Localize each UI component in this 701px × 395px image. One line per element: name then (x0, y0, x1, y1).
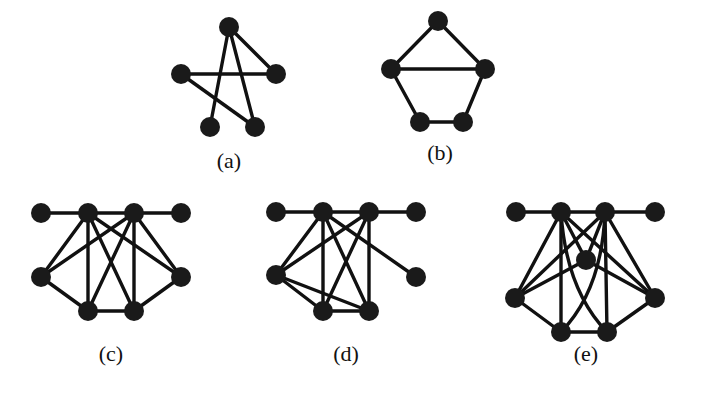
graph-node (219, 17, 239, 37)
caption-c: (c) (99, 341, 123, 366)
edges-layer (41, 21, 655, 332)
graph-node (505, 288, 525, 308)
graph-figure: (a)(b)(c)(d)(e) (0, 0, 701, 395)
graph-node (475, 59, 495, 79)
edge (210, 27, 229, 127)
graph-node (406, 202, 426, 222)
graph-node (359, 301, 379, 321)
graph-node (266, 265, 286, 285)
graph-node (171, 267, 191, 287)
graph-node (124, 301, 144, 321)
graph-a-nodes (171, 17, 286, 137)
graph-node (506, 202, 526, 222)
graph-node (171, 64, 191, 84)
edge (41, 213, 88, 277)
graph-node (78, 203, 98, 223)
edge (391, 21, 438, 69)
graph-b-nodes (381, 11, 495, 132)
graph-c-edges (41, 213, 181, 311)
edge (276, 212, 323, 275)
graph-node (171, 203, 191, 223)
graph-node (266, 202, 286, 222)
graph-node (31, 203, 51, 223)
graph-d-edges (276, 212, 416, 311)
graph-node (453, 112, 473, 132)
edge (438, 21, 485, 69)
graph-node (78, 301, 98, 321)
graph-node (200, 117, 220, 137)
graph-node (313, 301, 333, 321)
graph-e-edges (515, 212, 655, 332)
graph-node (245, 117, 265, 137)
graph-node (645, 202, 665, 222)
graph-node (576, 250, 596, 270)
graph-node (428, 11, 448, 31)
edge (134, 213, 181, 277)
caption-e: (e) (574, 341, 598, 366)
graph-node (359, 202, 379, 222)
graph-node (410, 112, 430, 132)
graph-node (406, 267, 426, 287)
graph-node (645, 288, 665, 308)
caption-a: (a) (217, 148, 241, 173)
graph-node (597, 322, 617, 342)
graph-node (595, 202, 615, 222)
graph-b-edges (391, 21, 485, 122)
graph-a-edges (181, 27, 276, 127)
caption-b: (b) (427, 140, 453, 165)
graph-node (551, 322, 571, 342)
caption-d: (d) (333, 341, 359, 366)
graph-node (381, 59, 401, 79)
graph-node (313, 202, 333, 222)
graph-node (551, 202, 571, 222)
graph-node (31, 267, 51, 287)
graph-node (124, 203, 144, 223)
graph-node (266, 64, 286, 84)
